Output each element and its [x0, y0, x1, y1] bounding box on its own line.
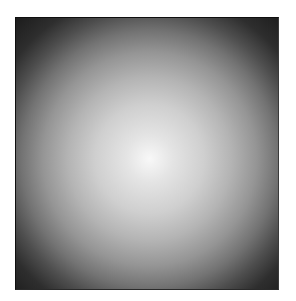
- image-canvas: [0, 0, 296, 301]
- radial-gradient-square: [15, 17, 279, 290]
